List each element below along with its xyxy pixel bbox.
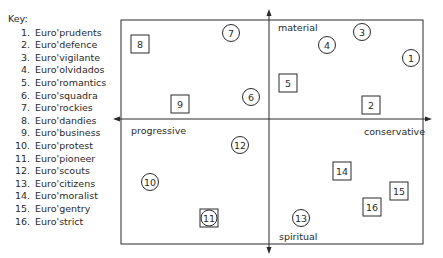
segment-marker-8: 8	[131, 35, 149, 53]
segment-marker-7: 7	[223, 25, 240, 42]
marker-label: 1	[408, 53, 414, 64]
marker-label: 6	[248, 92, 254, 103]
axis-label-spiritual: spiritual	[279, 231, 317, 242]
segment-marker-4: 4	[319, 37, 336, 54]
segment-marker-16: 16	[363, 198, 381, 216]
segment-marker-14: 14	[333, 162, 351, 180]
marker-label: 7	[228, 28, 234, 39]
segment-marker-12: 12	[232, 137, 249, 154]
segment-marker-11: 11	[200, 209, 218, 227]
marker-label: 10	[144, 177, 156, 188]
arrow-down-icon	[267, 247, 272, 254]
axis-label-conservative: conservative	[364, 126, 425, 137]
segment-marker-2: 2	[362, 96, 380, 114]
marker-label: 13	[295, 213, 307, 224]
segment-marker-6: 6	[243, 89, 260, 106]
segment-marker-9: 9	[171, 95, 189, 113]
arrow-right-icon	[425, 117, 432, 122]
marker-label: 8	[137, 39, 143, 50]
segment-marker-13: 13	[293, 210, 310, 227]
marker-label: 5	[285, 78, 291, 89]
segment-marker-1: 1	[403, 50, 420, 67]
marker-label: 9	[177, 99, 183, 110]
arrow-left-icon	[113, 117, 120, 122]
marker-label: 3	[359, 27, 365, 38]
segment-map: material spiritual progressive conservat…	[0, 0, 443, 258]
axis-label-material: material	[278, 22, 318, 33]
marker-label: 14	[336, 166, 348, 177]
axis-label-progressive: progressive	[131, 125, 186, 136]
marker-label: 11	[203, 213, 215, 224]
segment-marker-15: 15	[390, 182, 408, 200]
marker-label: 12	[234, 140, 246, 151]
marker-label: 16	[366, 202, 378, 213]
segment-marker-5: 5	[279, 74, 297, 92]
segment-marker-10: 10	[142, 174, 159, 191]
marker-label: 15	[393, 186, 405, 197]
marker-label: 2	[368, 100, 374, 111]
segment-marker-3: 3	[354, 24, 371, 41]
arrow-up-icon	[267, 9, 272, 16]
marker-label: 4	[324, 40, 330, 51]
